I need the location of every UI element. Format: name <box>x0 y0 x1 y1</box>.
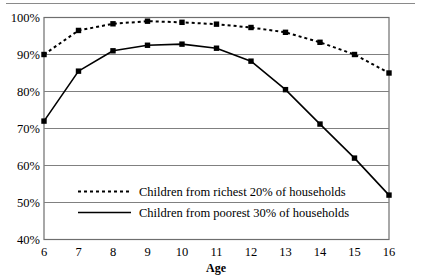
data-point-marker <box>145 43 150 48</box>
x-axis-tick-labels: 678910111213141516 <box>41 245 395 259</box>
y-tick-label: 40% <box>17 233 40 247</box>
line-chart: 100% 90% 80% 70% 60% 50% 40% 67891011121… <box>0 0 421 279</box>
y-axis-tick-labels: 100% 90% 80% 70% 60% 50% 40% <box>11 11 40 247</box>
x-tick-label: 10 <box>176 245 189 259</box>
data-point-marker <box>386 192 391 197</box>
y-tick-label: 90% <box>17 48 40 62</box>
x-tick-label: 13 <box>279 245 292 259</box>
data-point-marker <box>248 58 253 63</box>
data-point-marker <box>41 52 46 57</box>
x-tick-label: 9 <box>144 245 150 259</box>
data-point-marker <box>145 19 150 24</box>
y-tick-label: 100% <box>11 11 40 25</box>
x-tick-label: 6 <box>41 245 47 259</box>
data-point-marker <box>352 155 357 160</box>
data-point-marker <box>179 41 184 46</box>
x-tick-label: 16 <box>383 245 396 259</box>
x-axis-title: Age <box>206 261 227 275</box>
y-tick-label: 50% <box>17 196 40 210</box>
x-tick-label: 12 <box>245 245 258 259</box>
series-poorest <box>41 41 391 197</box>
data-point-marker <box>76 68 81 73</box>
chart-figure: 100% 90% 80% 70% 60% 50% 40% 67891011121… <box>0 0 421 279</box>
data-point-marker <box>248 25 253 30</box>
x-tick-label: 11 <box>210 245 222 259</box>
data-point-marker <box>76 28 81 33</box>
data-point-marker <box>179 20 184 25</box>
data-point-marker <box>41 118 46 123</box>
x-tick-label: 7 <box>75 245 81 259</box>
data-point-marker <box>110 48 115 53</box>
data-point-marker <box>283 30 288 35</box>
x-tick-label: 14 <box>314 245 327 259</box>
data-point-marker <box>214 21 219 26</box>
legend-label-richest: Children from richest 20% of households <box>139 185 346 199</box>
series-line <box>44 44 389 195</box>
data-series-group <box>41 19 391 198</box>
x-tick-label: 8 <box>110 245 116 259</box>
data-point-marker <box>352 52 357 57</box>
y-tick-label: 80% <box>17 85 40 99</box>
legend-label-poorest: Children from poorest 30% of households <box>139 206 349 220</box>
gridlines <box>44 55 389 203</box>
data-point-marker <box>110 21 115 26</box>
y-tick-label: 70% <box>17 122 40 136</box>
data-point-marker <box>386 70 391 75</box>
data-point-marker <box>214 46 219 51</box>
y-tick-label: 60% <box>17 159 40 173</box>
x-tick-label: 15 <box>348 245 361 259</box>
data-point-marker <box>283 87 288 92</box>
data-point-marker <box>317 40 322 45</box>
data-point-marker <box>317 121 322 126</box>
